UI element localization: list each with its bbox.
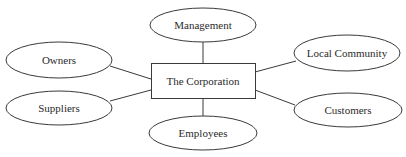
connector-local-community: [255, 61, 296, 72]
connector-suppliers: [110, 90, 151, 101]
stakeholder-suppliers: Suppliers: [6, 91, 112, 125]
stakeholder-customers: Customers: [294, 93, 402, 127]
stakeholder-local-community: Local Community: [294, 35, 400, 71]
diagram-canvas: ManagementOwnersLocal CommunitySuppliers…: [0, 0, 406, 157]
stakeholder-owners: Owners: [6, 42, 112, 78]
owners-label: Owners: [42, 54, 76, 66]
connector-owners: [110, 66, 151, 79]
employees-label: Employees: [179, 127, 228, 139]
suppliers-label: Suppliers: [38, 102, 80, 114]
stakeholder-employees: Employees: [149, 116, 257, 150]
corporation-label: The Corporation: [166, 75, 240, 87]
connector-customers: [255, 90, 295, 105]
center-node: The Corporation: [152, 64, 256, 99]
customers-label: Customers: [324, 104, 371, 116]
management-label: Management: [174, 19, 231, 31]
stakeholder-diagram: ManagementOwnersLocal CommunitySuppliers…: [0, 0, 406, 157]
local-community-label: Local Community: [307, 47, 388, 59]
stakeholder-management: Management: [150, 8, 256, 42]
